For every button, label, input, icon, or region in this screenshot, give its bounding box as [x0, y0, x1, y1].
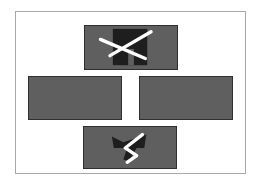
bottom-panel — [83, 126, 177, 169]
left-panel — [28, 76, 122, 120]
top-panel — [84, 25, 178, 70]
right-panel — [139, 76, 233, 120]
crossed-pillars-icon — [85, 26, 177, 69]
zigzag-bowtie-icon — [84, 127, 176, 168]
